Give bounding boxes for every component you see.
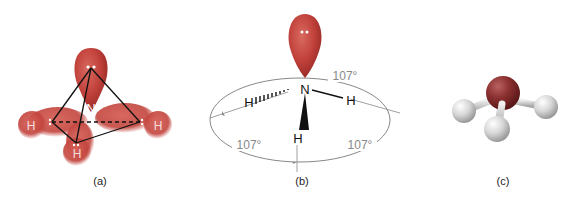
panel-c-ball-and-stick-model: (c): [452, 76, 558, 187]
bond-dot: [77, 144, 79, 146]
lone-pair-dot: [301, 31, 304, 34]
caption-a: (a): [93, 175, 106, 187]
lone-pair-dot: [92, 65, 95, 68]
angle-label-top: 107°: [333, 69, 358, 83]
caption-b: (b): [295, 175, 308, 187]
panel-a-electron-cloud-model: N H H H (a): [18, 48, 172, 187]
bond-dot: [141, 119, 143, 121]
bond-dot: [49, 123, 51, 125]
axis-line-right: [350, 99, 400, 113]
caption-c: (c): [497, 175, 510, 187]
angle-label-bottom-right: 107°: [348, 138, 373, 152]
atom-label-h-left: H: [27, 119, 36, 133]
bond-dot: [141, 123, 143, 125]
plain-bond: [312, 90, 343, 98]
hydrogen-atom-right: [534, 95, 558, 119]
ammonia-geometry-figure: N H H H (a): [0, 0, 585, 204]
atom-label-n: N: [300, 82, 309, 97]
atom-label-h-right: H: [154, 119, 163, 133]
atom-label-h-front: H: [293, 131, 302, 146]
atom-label-h-back: H: [244, 95, 253, 110]
arrow-tick: [292, 162, 296, 164]
atom-label-n: N: [86, 101, 95, 116]
hydrogen-atom-left: [452, 99, 476, 123]
atom-label-h-front: H: [73, 147, 82, 161]
lone-pair-dot: [86, 65, 89, 68]
solid-wedge-bond: [299, 93, 309, 130]
angle-label-bottom-left: 107°: [237, 138, 262, 152]
lone-pair-dot: [306, 31, 309, 34]
panel-b-bond-angle-model: N H H H 107° 107° 107° (b): [210, 14, 400, 187]
hashed-wedge-bond: [256, 89, 288, 104]
hydrogen-atom-front: [484, 116, 510, 142]
atom-label-h-right: H: [346, 93, 355, 108]
bond-dot: [73, 144, 75, 146]
lone-pair-lobe: [289, 14, 322, 78]
bond-dot: [49, 119, 51, 121]
